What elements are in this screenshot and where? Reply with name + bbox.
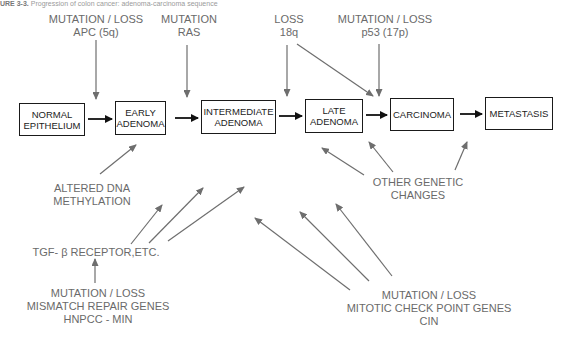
label-methylation: ALTERED DNA METHYLATION (53, 182, 130, 208)
label-line: MUTATION / LOSS (347, 289, 512, 302)
stage-line: EARLY (116, 107, 164, 118)
label-other-genetic-changes: OTHER GENETIC CHANGES (373, 176, 463, 202)
arrow-tgf-3 (168, 187, 244, 241)
arrow-other-2 (369, 142, 393, 172)
label-line: MUTATION / LOSS (338, 13, 432, 26)
label-mismatch-repair: MUTATION / LOSS MISMATCH REPAIR GENES HN… (27, 287, 170, 326)
label-line: LOSS (274, 13, 303, 26)
arrow-methylation (100, 145, 136, 174)
arrow-mitotic-3 (336, 204, 392, 276)
label-line: MUTATION (161, 13, 217, 26)
label-18q: LOSS 18q (274, 13, 303, 39)
label-tgf-beta: TGF- β RECEPTOR,ETC. (32, 246, 159, 259)
label-line: CHANGES (373, 189, 463, 202)
label-line: MUTATION / LOSS (27, 287, 170, 300)
label-line: MUTATION / LOSS (49, 13, 143, 26)
arrow-tgf-1 (131, 205, 162, 244)
label-line: METHYLATION (53, 195, 130, 208)
stage-carcinoma: CARCINOMA (390, 98, 454, 131)
stage-line: ADENOMA (310, 116, 358, 127)
stage-line: CARCINOMA (393, 109, 451, 120)
label-line: TGF- β RECEPTOR,ETC. (32, 246, 159, 259)
label-mitotic-checkpoint: MUTATION / LOSS MITOTIC CHECK POINT GENE… (347, 289, 512, 328)
arrow-mitotic-1 (255, 218, 350, 290)
label-line: MITOTIC CHECK POINT GENES (347, 302, 512, 315)
label-line: RAS (161, 26, 217, 39)
stage-late-adenoma: LATEADENOMA (305, 99, 363, 133)
label-apc: MUTATION / LOSS APC (5q) (49, 13, 143, 39)
label-ras: MUTATION RAS (161, 13, 217, 39)
stage-early-adenoma: EARLYADENOMA (115, 101, 166, 135)
stage-line: ADENOMA (203, 117, 273, 128)
stage-metastasis: METASTASIS (485, 97, 553, 130)
arrow-other-3 (455, 142, 467, 170)
arrow-other-1 (322, 148, 364, 175)
stage-intermediate-adenoma: INTERMEDIATEADENOMA (201, 100, 276, 134)
label-line: OTHER GENETIC (373, 176, 463, 189)
arrow-18q-diagonal (297, 44, 373, 96)
stage-normal-epithelium: NORMALEPITHELIUM (19, 103, 85, 136)
stage-line: LATE (310, 105, 358, 116)
stage-line: EPITHELIUM (23, 120, 80, 131)
label-line: ALTERED DNA (53, 182, 130, 195)
label-line: APC (5q) (49, 26, 143, 39)
stage-line: ADENOMA (116, 118, 164, 129)
stage-line: INTERMEDIATE (203, 106, 273, 117)
stage-line: METASTASIS (490, 108, 549, 119)
label-line: CIN (347, 315, 512, 328)
label-line: 18q (274, 26, 303, 39)
label-line: MISMATCH REPAIR GENES (27, 300, 170, 313)
label-p53: MUTATION / LOSS p53 (17p) (338, 13, 432, 39)
label-line: HNPCC - MIN (27, 313, 170, 326)
label-line: p53 (17p) (338, 26, 432, 39)
stage-line: NORMAL (23, 109, 80, 120)
arrow-mitotic-2 (300, 212, 369, 281)
